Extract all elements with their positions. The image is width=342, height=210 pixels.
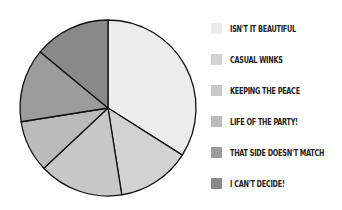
legend-label: LIFE OF THE PARTY! [230, 117, 298, 127]
legend-item: CASUAL WINKS [211, 44, 341, 75]
legend-swatch [211, 147, 222, 158]
legend-item: I CAN'T DECIDE! [211, 168, 341, 199]
legend-swatch [211, 23, 222, 34]
legend-swatch [211, 116, 222, 127]
legend-item: ISN'T IT BEAUTIFUL [211, 13, 341, 44]
legend-item: LIFE OF THE PARTY! [211, 106, 341, 137]
legend-label: I CAN'T DECIDE! [230, 179, 285, 189]
legend-swatch [211, 178, 222, 189]
legend: ISN'T IT BEAUTIFUL CASUAL WINKS KEEPING … [211, 13, 341, 199]
legend-item: THAT SIDE DOESN'T MATCH [211, 137, 341, 168]
legend-swatch [211, 54, 222, 65]
legend-item: KEEPING THE PEACE [211, 75, 341, 106]
pie-chart [0, 0, 210, 210]
legend-label: ISN'T IT BEAUTIFUL [230, 24, 296, 34]
legend-label: THAT SIDE DOESN'T MATCH [230, 148, 324, 158]
legend-label: CASUAL WINKS [230, 55, 283, 65]
legend-swatch [211, 85, 222, 96]
legend-label: KEEPING THE PEACE [230, 86, 300, 96]
